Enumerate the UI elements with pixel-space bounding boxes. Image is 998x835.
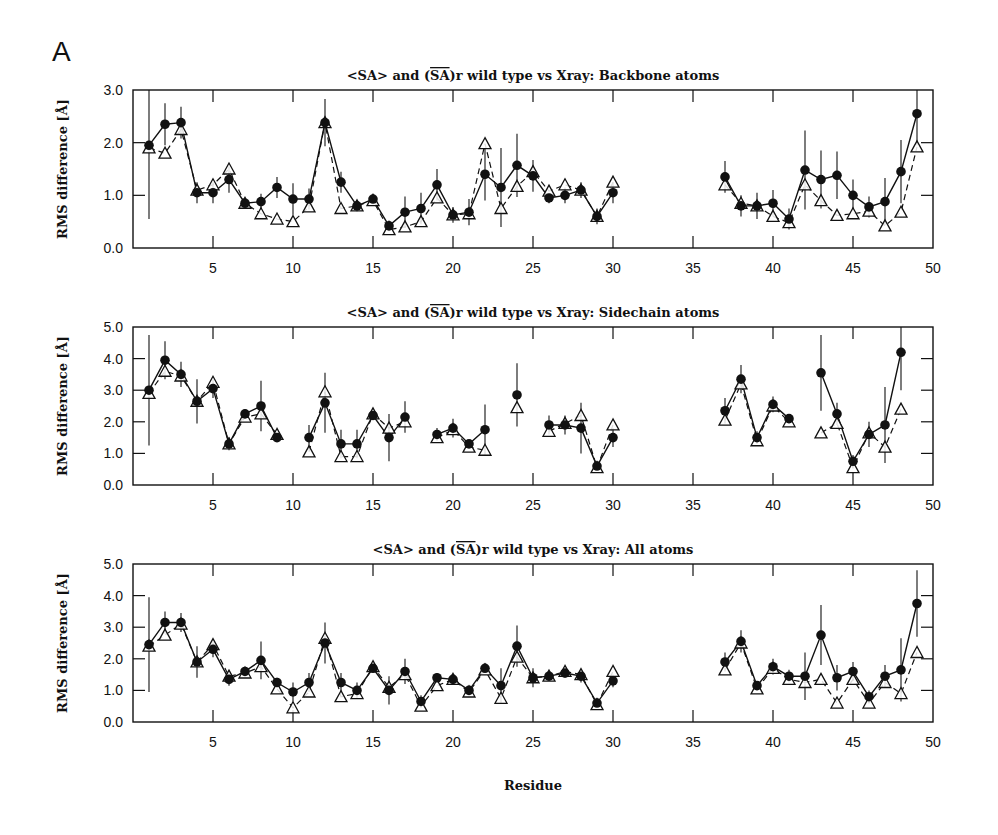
circle-marker xyxy=(528,171,538,181)
circle-marker xyxy=(544,420,554,430)
circle-marker xyxy=(608,188,618,198)
circle-marker xyxy=(848,667,858,677)
y-axis-label: RMS difference [Å] xyxy=(55,99,70,239)
circle-marker xyxy=(368,411,378,421)
circle-marker xyxy=(848,457,858,467)
circle-marker xyxy=(208,645,218,655)
y-tick-label: 0.0 xyxy=(104,240,124,256)
x-tick-label: 45 xyxy=(845,497,861,513)
y-axis-label: RMS difference [Å] xyxy=(55,336,70,476)
circle-marker xyxy=(880,420,890,430)
circle-marker xyxy=(384,433,394,443)
circle-marker xyxy=(160,618,170,628)
circle-marker xyxy=(608,433,618,443)
triangle-marker xyxy=(319,386,331,397)
circle-marker xyxy=(304,678,314,688)
circle-marker xyxy=(512,641,522,651)
circle-marker xyxy=(320,118,330,128)
circle-marker xyxy=(560,668,570,678)
triangle-marker xyxy=(511,402,523,413)
x-tick-label: 25 xyxy=(525,497,541,513)
x-tick-label: 10 xyxy=(285,734,301,750)
x-tick-label: 30 xyxy=(605,260,621,276)
y-tick-label: 0.0 xyxy=(104,714,124,730)
x-tick-label: 5 xyxy=(209,734,217,750)
circle-marker xyxy=(368,194,378,204)
circle-marker xyxy=(832,409,842,419)
circle-marker xyxy=(576,185,586,195)
circle-marker xyxy=(768,400,778,410)
triangle-marker xyxy=(159,629,171,640)
circle-marker xyxy=(912,109,922,119)
y-tick-label: 0.0 xyxy=(104,477,124,493)
circle-marker xyxy=(576,423,586,433)
circle-marker xyxy=(592,212,602,222)
y-axis-label: RMS difference [Å] xyxy=(55,573,70,713)
circle-marker xyxy=(896,347,906,357)
circle-marker xyxy=(544,671,554,681)
circle-marker xyxy=(864,430,874,440)
x-axis-label: Residue xyxy=(504,778,562,793)
y-tick-label: 5.0 xyxy=(104,556,124,572)
triangle-marker xyxy=(815,427,827,438)
circle-marker xyxy=(720,406,730,416)
triangle-marker xyxy=(815,673,827,684)
circle-marker xyxy=(832,673,842,683)
circle-marker xyxy=(528,673,538,683)
triangle-marker xyxy=(895,206,907,217)
circle-marker xyxy=(512,161,522,171)
sidechain-panel: <SA> and (SA)r wild type vs Xray: Sidech… xyxy=(55,305,941,513)
circle-marker xyxy=(736,201,746,211)
circle-marker xyxy=(256,197,266,207)
circle-marker xyxy=(752,433,762,443)
x-tick-label: 45 xyxy=(845,734,861,750)
panel-title: <SA> and (SA)r wild type vs Xray: Backbo… xyxy=(347,68,720,83)
x-tick-label: 15 xyxy=(365,497,381,513)
circle-marker xyxy=(176,618,186,628)
y-tick-label: 4.0 xyxy=(104,588,124,604)
circle-marker xyxy=(432,430,442,440)
circle-marker xyxy=(208,384,218,394)
circle-marker xyxy=(864,692,874,702)
circle-marker xyxy=(224,439,234,449)
circle-marker xyxy=(304,433,314,443)
triangle-marker xyxy=(271,213,283,224)
circle-marker xyxy=(352,686,362,696)
circle-marker xyxy=(176,118,186,128)
x-tick-label: 15 xyxy=(365,260,381,276)
circle-marker xyxy=(336,439,346,449)
triangle-marker xyxy=(335,203,347,214)
circle-marker xyxy=(192,188,202,198)
circle-marker xyxy=(464,686,474,696)
circle-marker xyxy=(144,385,154,395)
sar-line xyxy=(821,409,901,467)
x-tick-label: 25 xyxy=(525,734,541,750)
circle-marker xyxy=(208,188,218,198)
circle-marker xyxy=(448,423,458,433)
y-tick-label: 3.0 xyxy=(104,619,124,635)
y-tick-label: 4.0 xyxy=(104,351,124,367)
circle-marker xyxy=(336,177,346,187)
triangle-marker xyxy=(223,163,235,174)
circle-marker xyxy=(560,420,570,430)
circle-marker xyxy=(224,175,234,185)
circle-marker xyxy=(752,681,762,691)
backbone-panel: <SA> and (SA)r wild type vs Xray: Backbo… xyxy=(55,68,941,276)
circle-marker xyxy=(240,409,250,419)
circle-marker xyxy=(272,183,282,193)
triangle-marker xyxy=(255,208,267,219)
circle-marker xyxy=(304,194,314,204)
sar-line xyxy=(437,430,485,451)
circle-marker xyxy=(896,665,906,675)
circle-marker xyxy=(752,201,762,211)
circle-marker xyxy=(240,198,250,208)
circle-marker xyxy=(448,210,458,220)
x-tick-label: 35 xyxy=(685,260,701,276)
circle-marker xyxy=(576,671,586,681)
circle-marker xyxy=(192,657,202,667)
circle-marker xyxy=(896,167,906,177)
sa-line xyxy=(437,428,485,444)
circle-marker xyxy=(320,398,330,408)
y-tick-label: 1.0 xyxy=(104,682,124,698)
y-tick-label: 1.0 xyxy=(104,187,124,203)
